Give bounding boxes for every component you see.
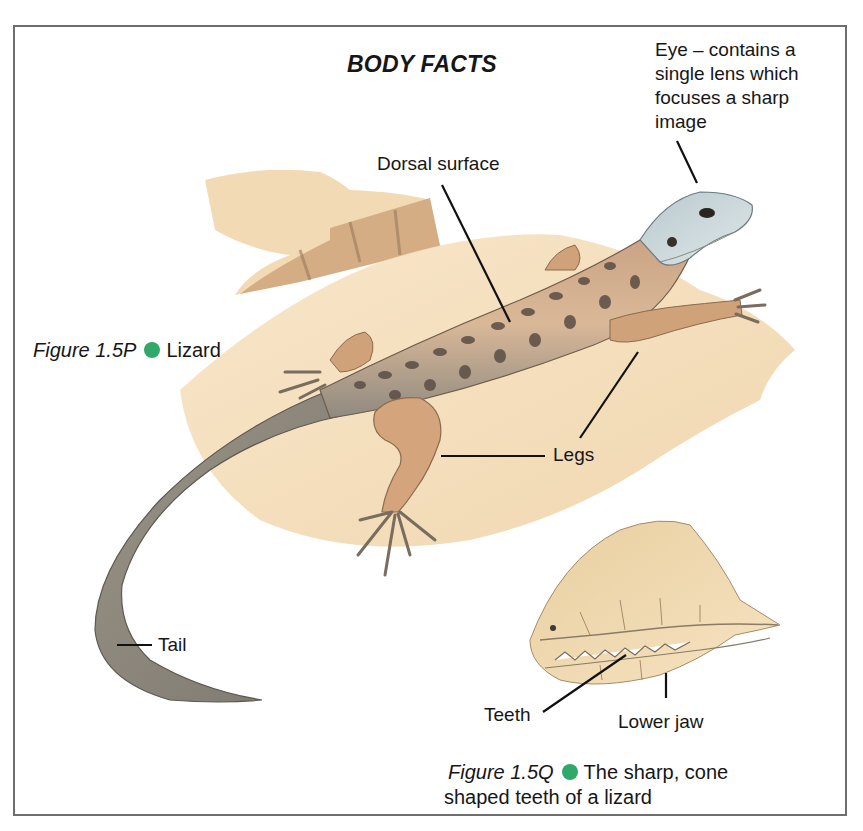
figure-number: Figure 1.5Q [448,761,554,783]
figure-caption-text-line2: shaped teeth of a lizard [444,786,652,808]
label-dorsal-surface: Dorsal surface [377,153,500,175]
label-teeth: Teeth [484,704,530,726]
page-title: BODY FACTS [347,51,497,78]
green-dot-icon [562,764,578,780]
figure-caption-p: Figure 1.5PLizard [33,338,221,363]
label-eye: Eye – contains a single lens which focus… [655,38,835,134]
label-tail: Tail [158,634,187,656]
label-lower-jaw: Lower jaw [618,711,704,733]
figure-caption-text: The sharp, cone [584,761,729,783]
figure-caption-text: Lizard [166,339,220,361]
jaw-closeup-illustration [530,521,780,684]
lizard-eye [699,208,715,218]
label-legs: Legs [553,444,594,466]
lizard-head [640,192,752,265]
green-dot-icon [144,342,160,358]
figure-number: Figure 1.5P [33,339,136,361]
figure-caption-q: Figure 1.5QThe sharp, cone shaped teeth … [448,760,728,810]
